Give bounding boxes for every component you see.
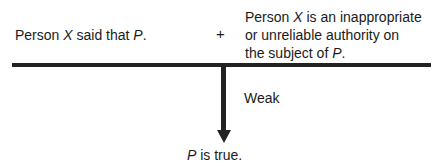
text: . [143,27,147,43]
text: the subject of [245,45,332,61]
text: is true. [196,147,242,163]
conclusion: P is true. [187,147,242,163]
premise-2-line-3: the subject of P. [245,45,345,61]
text: said that [73,27,134,43]
inference-arrow-shaft [221,65,226,131]
plus-sign: + [216,26,225,42]
text: is an inappropriate [303,9,422,25]
arrow-down-icon [217,130,231,143]
premise-2-line-2: or unreliable authority on [245,27,399,43]
premise-2-line-1: Person X is an inappropriate [245,9,422,25]
var-p: P [187,147,196,163]
var-x: X [293,9,302,25]
text: Person [245,9,293,25]
var-p: P [332,45,341,61]
text: . [342,45,346,61]
strength-label: Weak [244,90,280,106]
var-p: P [133,27,142,43]
premise-1: Person X said that P. [15,27,147,43]
var-x: X [63,27,72,43]
text: Person [15,27,63,43]
